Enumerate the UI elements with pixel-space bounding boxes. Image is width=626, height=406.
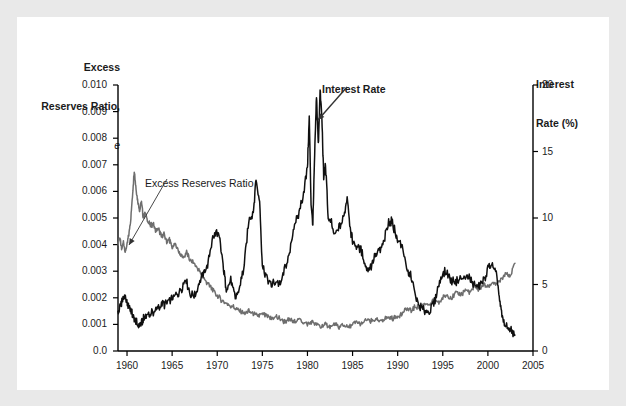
right-tick-label: 20 xyxy=(542,79,570,90)
left-tick-label: 0.010 xyxy=(61,79,107,90)
left-tick-label: 0.007 xyxy=(61,159,107,170)
chart-plot xyxy=(17,17,609,390)
right-tick-label: 5 xyxy=(542,279,570,290)
chart-panel: Excess Reserves Ratio, e Interest Rate (… xyxy=(17,17,609,390)
left-tick-label: 0.0 xyxy=(61,345,107,356)
x-tick-label: 2005 xyxy=(511,360,555,371)
series-line-excess-reserves-ratio xyxy=(118,172,515,329)
left-tick-label: 0.008 xyxy=(61,132,107,143)
tick-marks xyxy=(113,85,538,356)
x-tick-label: 2000 xyxy=(466,360,510,371)
series-layer xyxy=(118,90,515,337)
x-tick-label: 1990 xyxy=(376,360,420,371)
arrow-interest-rate xyxy=(318,87,347,120)
x-tick-label: 1970 xyxy=(195,360,239,371)
right-tick-label: 15 xyxy=(542,146,570,157)
right-tick-label: 0 xyxy=(542,345,570,356)
figure-root: Excess Reserves Ratio, e Interest Rate (… xyxy=(0,0,626,406)
x-tick-label: 1985 xyxy=(331,360,375,371)
right-tick-label: 10 xyxy=(542,212,570,223)
left-tick-label: 0.002 xyxy=(61,292,107,303)
left-tick-label: 0.001 xyxy=(61,318,107,329)
x-tick-label: 1995 xyxy=(421,360,465,371)
left-tick-label: 0.009 xyxy=(61,106,107,117)
axis-lines xyxy=(118,85,533,351)
left-tick-label: 0.005 xyxy=(61,212,107,223)
x-tick-label: 1975 xyxy=(240,360,284,371)
left-tick-label: 0.006 xyxy=(61,185,107,196)
x-tick-label: 1980 xyxy=(285,360,329,371)
series-line-interest-rate xyxy=(118,90,515,337)
left-tick-label: 0.003 xyxy=(61,265,107,276)
left-tick-label: 0.004 xyxy=(61,239,107,250)
x-tick-label: 1965 xyxy=(150,360,194,371)
x-tick-label: 1960 xyxy=(105,360,149,371)
arrow-excess-reserves-head xyxy=(129,238,135,245)
